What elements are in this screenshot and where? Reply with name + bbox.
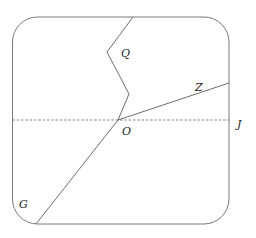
ray-og [36, 120, 118, 224]
label-g: G [19, 198, 28, 211]
label-o: O [122, 125, 131, 138]
label-z: Z [194, 81, 203, 94]
label-j: J [235, 118, 242, 131]
label-q: Q [121, 47, 130, 60]
path-q [107, 17, 133, 120]
geometry-diagram: Q Z O J G [0, 0, 256, 238]
ray-oz [118, 83, 229, 120]
